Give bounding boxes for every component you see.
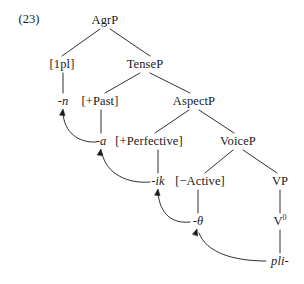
- branch-agrp-to-tensep: [110, 29, 150, 56]
- arrow-curve-a-to-n: [63, 113, 96, 142]
- branch-tensep-to-past: [105, 73, 140, 93]
- tree-node-pli: pli-: [271, 255, 289, 268]
- movement-arrow-theta-to-ik: [155, 189, 190, 222]
- arrow-curve-pli-to-theta: [199, 233, 266, 261]
- tree-node-tensep: TenseP: [127, 58, 164, 71]
- tree-node-perfective: [+Perfective]: [115, 135, 182, 148]
- tree-node-active: [−Active]: [175, 175, 225, 188]
- branch-voicep-to-vp: [243, 150, 277, 173]
- movement-arrow-ik-to-a: [97, 149, 150, 182]
- figure-canvas: (23) AgrP[1pl]TenseP-n[+Past]AspectP-a[+…: [0, 0, 304, 284]
- tree-node-a: -a: [96, 135, 107, 148]
- example-number-label: (23): [19, 13, 40, 26]
- tree-node-ik: -ik: [151, 175, 164, 188]
- v-zero-superscript: 0: [283, 213, 287, 222]
- movement-arrow-pli-to-theta: [193, 229, 266, 261]
- tree-node-v0: V0: [273, 215, 286, 228]
- tree-node-agrp: AgrP: [92, 14, 119, 27]
- branch-aspectp-to-perfective: [155, 110, 189, 133]
- arrow-curve-theta-to-ik: [158, 193, 190, 222]
- tree-node-theta: -θ: [193, 215, 204, 228]
- tree-node-n: -n: [58, 95, 69, 108]
- arrow-head-pli-to-theta: [193, 229, 198, 236]
- tree-node-past: [+Past]: [82, 95, 119, 108]
- arrow-curve-ik-to-a: [102, 153, 150, 182]
- movement-arrow-a-to-n: [60, 109, 96, 142]
- tree-node-aspectp: AspectP: [173, 95, 215, 108]
- arrow-head-ik-to-a: [97, 149, 102, 156]
- tree-node-1pl: [1pl]: [50, 58, 75, 71]
- arrow-head-a-to-n: [60, 109, 65, 115]
- branch-tensep-to-aspectp: [150, 73, 190, 93]
- branch-aspectp-to-voicep: [199, 110, 234, 133]
- arrow-head-theta-to-ik: [155, 189, 160, 195]
- v-zero-base: V: [273, 214, 282, 228]
- branch-voicep-to-active: [205, 150, 233, 173]
- tree-node-vp: VP: [272, 175, 288, 188]
- branch-agrp-to-1pl: [62, 29, 100, 56]
- tree-node-voicep: VoiceP: [220, 135, 256, 148]
